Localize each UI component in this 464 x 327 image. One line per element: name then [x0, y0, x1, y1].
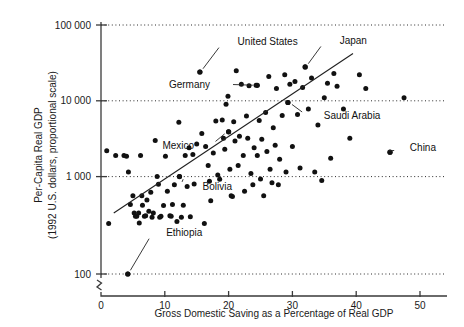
data-point: [211, 150, 216, 155]
data-point: [194, 141, 199, 146]
annotations-group: United StatesJapanGermanyMexicoSaudi Ara…: [125, 35, 436, 276]
data-point: [140, 203, 145, 208]
data-point: [183, 153, 188, 158]
data-point: [224, 102, 229, 107]
data-point: [277, 157, 282, 162]
data-point: [335, 84, 340, 89]
data-point: [230, 194, 235, 199]
data-point: [255, 153, 260, 158]
data-point: [220, 117, 225, 122]
data-point: [172, 182, 177, 187]
data-point: [237, 134, 242, 139]
chart-canvas: 1001 00010 000100 000 01020304050 United…: [0, 0, 464, 327]
y-tick-label-100: 100: [74, 269, 91, 280]
data-point: [199, 131, 204, 136]
data-point: [328, 156, 333, 161]
data-points-group: [104, 64, 406, 276]
data-point: [363, 86, 368, 91]
data-point: [245, 136, 250, 141]
data-point: [170, 202, 175, 207]
data-point: [192, 181, 197, 186]
data-point: [222, 147, 227, 152]
data-point: [266, 74, 271, 79]
data-point: [130, 193, 135, 198]
annotated-point-united-states: [197, 69, 202, 74]
data-point: [287, 82, 292, 87]
y-tick-label-10000: 10 000: [60, 95, 91, 106]
y-tick-group: 1001 00010 000100 000: [55, 20, 107, 280]
data-point: [322, 95, 327, 100]
data-point: [258, 176, 263, 181]
data-point: [295, 112, 300, 117]
data-point: [176, 120, 181, 125]
data-point: [234, 68, 239, 73]
annotated-point-bolivia: [177, 174, 182, 179]
data-point: [273, 143, 278, 148]
data-point: [150, 215, 155, 220]
data-point: [257, 118, 262, 123]
data-point: [208, 198, 213, 203]
data-point: [202, 221, 207, 226]
data-point: [153, 138, 158, 143]
x-tick-label-50: 50: [414, 300, 426, 311]
data-point: [213, 119, 218, 124]
annotated-point-ethiopia: [125, 271, 130, 276]
data-point: [190, 152, 195, 157]
data-point: [312, 169, 317, 174]
annotation-label-mexico: Mexico: [162, 140, 194, 151]
y-tick-label-100000: 100 000: [55, 20, 92, 31]
data-point: [206, 163, 211, 168]
data-point: [138, 153, 143, 158]
annotation-label-germany: Germany: [169, 79, 210, 90]
data-point: [252, 145, 257, 150]
data-point: [248, 171, 253, 176]
data-point: [136, 211, 141, 216]
gridlines-group: [101, 25, 446, 274]
data-point: [244, 114, 249, 119]
data-point: [250, 182, 255, 187]
data-point: [163, 154, 168, 159]
y-axis-title-line1: Per-Capita Real GDP: [33, 107, 44, 203]
x-axis-line: [101, 292, 447, 296]
leader-line: [182, 179, 183, 182]
data-point: [242, 189, 247, 194]
annotation-label-bolivia: Bolivia: [203, 181, 233, 192]
axes-group: [97, 22, 447, 296]
data-point: [179, 215, 184, 220]
annotation-label-united-states: United States: [238, 36, 298, 47]
data-point: [315, 122, 320, 127]
data-point: [232, 138, 237, 143]
data-point: [143, 213, 148, 218]
data-point: [292, 79, 297, 84]
data-point: [269, 180, 274, 185]
data-point: [319, 178, 324, 183]
data-point: [290, 144, 295, 149]
annotation-label-saudi-arabia: Saudi Arabia: [324, 110, 381, 121]
y-tick-label-1000: 1 000: [66, 171, 91, 182]
data-point: [155, 174, 160, 179]
data-point: [402, 95, 407, 100]
data-point: [236, 163, 241, 168]
data-point: [165, 189, 170, 194]
data-point: [161, 203, 166, 208]
data-point: [259, 137, 264, 142]
annotation-label-japan: Japan: [340, 35, 367, 46]
data-point: [261, 193, 266, 198]
data-point: [325, 81, 330, 86]
annotated-point-mexico: [226, 129, 231, 134]
leader-line: [292, 104, 302, 112]
annotated-point-japan: [303, 64, 308, 69]
data-point: [146, 209, 151, 214]
data-point: [113, 153, 118, 158]
data-point: [306, 106, 311, 111]
data-point: [158, 214, 163, 219]
data-point: [231, 119, 236, 124]
data-point: [268, 167, 273, 172]
data-point: [357, 72, 362, 77]
annotated-point-saudi-arabia: [285, 100, 290, 105]
annotation-label-china: China: [410, 142, 437, 153]
data-point: [181, 203, 186, 208]
data-point: [241, 153, 246, 158]
annotation-label-ethiopia: Ethiopia: [166, 227, 203, 238]
leader-line: [308, 46, 321, 63]
